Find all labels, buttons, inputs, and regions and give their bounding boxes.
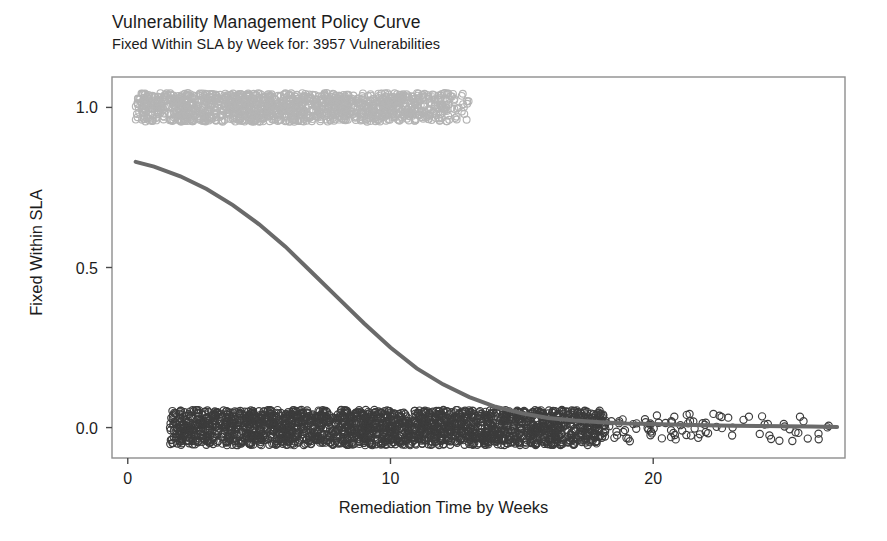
y-tick-label: 1.0 — [76, 99, 98, 116]
y-tick-label: 0.5 — [76, 260, 98, 277]
x-tick-label: 10 — [382, 470, 400, 487]
y-axis-label: Fixed Within SLA — [27, 133, 46, 373]
chart-figure: Vulnerability Management Policy Curve Fi… — [0, 0, 887, 541]
y-axis-ticks: 0.00.51.0 — [76, 99, 112, 436]
x-tick-label: 0 — [123, 470, 132, 487]
x-tick-label: 20 — [644, 470, 662, 487]
plot-area: 01020 0.00.51.0 — [0, 0, 887, 541]
x-axis-label: Remediation Time by Weeks — [0, 498, 887, 517]
y-tick-label: 0.0 — [76, 420, 98, 437]
x-axis-ticks: 01020 — [123, 458, 662, 487]
